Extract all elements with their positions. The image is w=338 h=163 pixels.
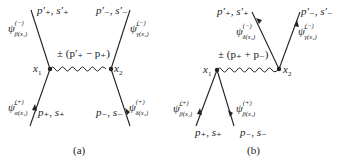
exchange-momentum-label: ± (p₊ + p₋): [218, 48, 268, 61]
arrow-icon: [228, 110, 233, 117]
label-bottom-left-momentum: p₊, s₊: [195, 126, 222, 139]
label-top-left-momentum: p′₊, s′₊: [37, 4, 69, 17]
caption-b: (b): [247, 144, 260, 156]
psi-top-right: ψ̄(−)γ(x₂): [298, 25, 317, 39]
vertex-x2: [277, 67, 281, 71]
vertex-x1: [215, 68, 219, 72]
vertex-x2: [109, 67, 113, 71]
psi-top-right: ψ̄(−)γ(x₂): [130, 22, 149, 36]
photon-wavy-line: [217, 68, 279, 72]
label-top-left-momentum: p′₊, s′₊: [217, 5, 249, 18]
exchange-momentum-label: ± (p′₊ − p₊): [57, 47, 110, 60]
feynman-diagrams-canvas: [0, 0, 338, 163]
vertex-label-x2: x2: [114, 62, 122, 77]
vertex-label-x2: x2: [283, 63, 291, 78]
fermion-line-top-left: [31, 10, 50, 69]
fermion-line-bottom-left: [196, 70, 217, 126]
label-top-right-momentum: p′₋, s′₋: [301, 5, 333, 18]
psi-bottom-right: ψ(+)β(x₁): [236, 102, 255, 116]
psi-bottom-left: ψ̄(+)α(x₁): [8, 101, 27, 115]
psi-top-left: ψ(−)β(x₁): [8, 22, 27, 36]
vertex-x1: [48, 67, 52, 71]
label-bottom-right-momentum: p₋, s₋: [96, 106, 123, 119]
vertex-label-x1: x1: [203, 63, 211, 78]
fermion-line-top-right: [111, 10, 130, 69]
vertex-label-x1: x1: [33, 62, 41, 77]
label-top-right-momentum: p′₋, s′₋: [96, 4, 128, 17]
caption-a: (a): [73, 144, 85, 156]
label-bottom-left-momentum: p₊, s₊: [38, 106, 65, 119]
psi-bottom-right: ψ(+)δ(x₂): [129, 101, 148, 115]
psi-bottom-left: ψ̄(+)β(x₁): [173, 102, 192, 116]
photon-wavy-line: [50, 67, 106, 71]
psi-top-left: ψ(−)δ(x₂): [236, 25, 255, 39]
label-bottom-right-momentum: p₋, s₋: [240, 126, 267, 139]
fermion-line-bottom-right: [217, 70, 234, 126]
